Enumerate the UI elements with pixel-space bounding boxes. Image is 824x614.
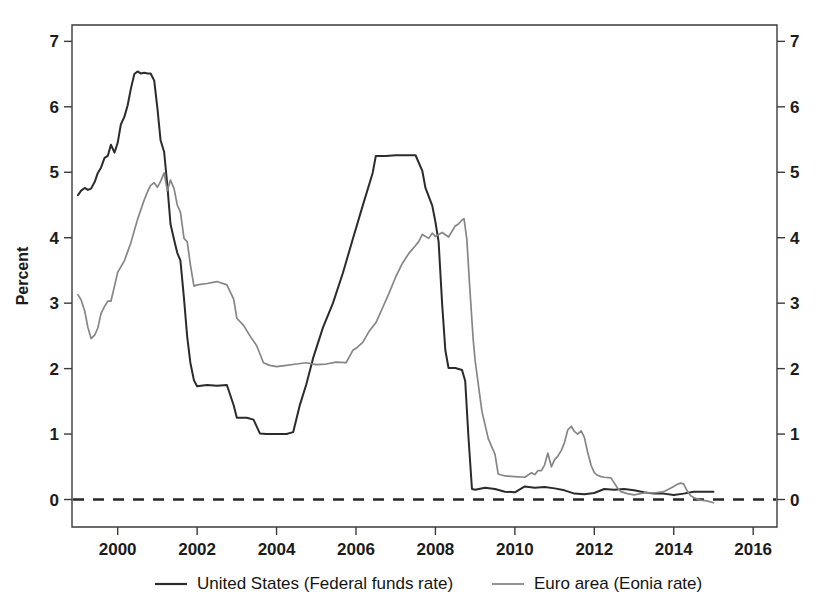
x-axis-tick-label-2000: 2000 <box>99 540 137 559</box>
series-line-euro-area <box>78 173 713 503</box>
x-axis-tick-label-2004: 2004 <box>258 540 296 559</box>
series-line-united-states <box>78 71 713 494</box>
legend-label-united-states: United States (Federal funds rate) <box>197 574 453 593</box>
y-axis-tick-label-right-4: 4 <box>790 229 800 248</box>
y-axis-tick-label-left-5: 5 <box>50 163 59 182</box>
y-axis-tick-label-right-0: 0 <box>790 491 799 510</box>
legend-label-euro-area: Euro area (Eonia rate) <box>534 574 702 593</box>
x-axis-tick-label-2012: 2012 <box>575 540 613 559</box>
x-axis-tick-label-2008: 2008 <box>417 540 455 559</box>
plot-frame <box>72 25 777 527</box>
x-axis-tick-label-2014: 2014 <box>655 540 693 559</box>
x-axis-tick-label-2002: 2002 <box>178 540 216 559</box>
y-axis-tick-label-left-6: 6 <box>50 98 59 117</box>
y-axis-tick-label-right-1: 1 <box>790 425 799 444</box>
y-axis-tick-label-right-2: 2 <box>790 360 799 379</box>
y-axis-tick-label-left-1: 1 <box>50 425 59 444</box>
y-axis-tick-label-right-3: 3 <box>790 294 799 313</box>
y-axis-tick-label-left-3: 3 <box>50 294 59 313</box>
y-axis-tick-label-left-2: 2 <box>50 360 59 379</box>
x-axis-tick-label-2016: 2016 <box>734 540 772 559</box>
y-axis-title: Percent <box>14 246 31 305</box>
x-axis-tick-label-2006: 2006 <box>337 540 375 559</box>
y-axis-tick-label-left-4: 4 <box>50 229 60 248</box>
y-axis-tick-label-left-0: 0 <box>50 491 59 510</box>
x-axis-tick-label-2010: 2010 <box>496 540 534 559</box>
chart-canvas: 0123456701234567200020022004200620082010… <box>0 0 824 614</box>
y-axis-tick-label-right-6: 6 <box>790 98 799 117</box>
y-axis-tick-label-right-7: 7 <box>790 32 799 51</box>
y-axis-tick-label-right-5: 5 <box>790 163 799 182</box>
policy-rate-chart-figure: 0123456701234567200020022004200620082010… <box>0 0 824 614</box>
y-axis-tick-label-left-7: 7 <box>50 32 59 51</box>
